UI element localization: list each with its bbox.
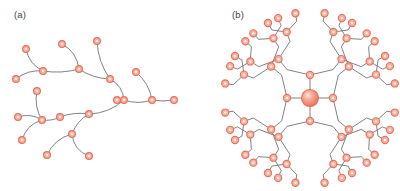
node-highlight xyxy=(368,133,370,135)
node-highlight xyxy=(351,22,353,24)
node-highlight xyxy=(224,111,226,113)
node-highlight xyxy=(389,129,391,131)
node-highlight xyxy=(345,156,347,158)
node-highlight xyxy=(243,120,245,122)
node-highlight xyxy=(252,32,254,34)
node-highlight xyxy=(229,129,231,131)
node-highlight xyxy=(96,40,98,42)
node-highlight xyxy=(267,22,269,24)
node-highlight xyxy=(373,40,375,42)
node-highlight xyxy=(373,153,375,155)
node-highlight xyxy=(384,139,386,141)
node-highlight xyxy=(309,74,311,76)
edge-a xyxy=(47,134,72,155)
edge-b xyxy=(271,67,287,98)
edge-b xyxy=(279,121,310,137)
node-highlight xyxy=(243,73,245,75)
node-highlight xyxy=(345,37,347,39)
node-highlight xyxy=(25,48,27,50)
node-highlight xyxy=(365,32,367,34)
node-highlight xyxy=(116,99,118,101)
node-highlight xyxy=(267,172,269,174)
edge-b xyxy=(330,32,341,59)
graph-svg xyxy=(0,0,400,191)
node-highlight xyxy=(351,172,353,174)
edge-b xyxy=(333,98,349,129)
edge-b xyxy=(244,118,271,129)
node-highlight xyxy=(244,40,246,42)
node-highlight xyxy=(394,111,396,113)
node-highlight xyxy=(270,128,272,130)
node-highlight xyxy=(332,163,334,165)
node-highlight xyxy=(151,99,153,101)
node-highlight xyxy=(286,97,288,99)
node-highlight xyxy=(252,161,254,163)
node-highlight xyxy=(341,177,343,179)
edge-a xyxy=(136,72,152,100)
node-highlight xyxy=(348,65,350,67)
node-highlight xyxy=(249,133,251,135)
edge-b xyxy=(349,118,376,129)
node-highlight xyxy=(88,155,90,157)
node-highlight xyxy=(61,43,63,45)
node-highlight xyxy=(368,60,370,62)
edge-b xyxy=(310,59,341,75)
node-highlight xyxy=(285,163,287,165)
node-highlight xyxy=(46,154,48,156)
edge-b xyxy=(330,137,341,164)
node-highlight xyxy=(389,65,391,67)
node-highlight xyxy=(277,58,279,60)
node-highlight xyxy=(294,12,296,14)
edge-a xyxy=(72,134,89,156)
node-highlight xyxy=(277,17,279,19)
edge-a xyxy=(22,120,42,140)
node-highlight xyxy=(285,31,287,33)
core-node xyxy=(302,90,319,107)
edge-a xyxy=(36,91,42,120)
node-highlight xyxy=(294,182,296,184)
node-highlight xyxy=(332,31,334,33)
node-highlight xyxy=(234,139,236,141)
node-highlight xyxy=(384,55,386,57)
panel-a-nodes xyxy=(13,38,178,160)
edge-b xyxy=(349,67,376,78)
node-highlight xyxy=(59,116,61,118)
node-highlight xyxy=(277,177,279,179)
node-highlight xyxy=(375,120,377,122)
node-highlight xyxy=(123,99,125,101)
node-highlight xyxy=(272,37,274,39)
node-highlight xyxy=(340,136,342,138)
node-highlight xyxy=(224,82,226,84)
node-highlight xyxy=(277,136,279,138)
node-highlight xyxy=(348,128,350,130)
node-highlight xyxy=(71,133,73,135)
node-highlight xyxy=(375,73,377,75)
edge-a xyxy=(26,49,43,71)
node-highlight xyxy=(323,182,325,184)
node-highlight xyxy=(244,153,246,155)
node-highlight xyxy=(173,99,175,101)
edge-b xyxy=(310,121,341,137)
node-highlight xyxy=(394,82,396,84)
edge-b xyxy=(333,67,349,98)
edge-a xyxy=(79,69,110,79)
node-highlight xyxy=(272,156,274,158)
panel-b-core-node xyxy=(302,90,319,107)
node-highlight xyxy=(365,161,367,163)
node-highlight xyxy=(270,65,272,67)
node-highlight xyxy=(340,58,342,60)
node-highlight xyxy=(309,120,311,122)
node-highlight xyxy=(249,60,251,62)
node-highlight xyxy=(323,12,325,14)
node-highlight xyxy=(229,65,231,67)
edge-a xyxy=(62,44,79,69)
edge-b xyxy=(279,137,290,164)
node-highlight xyxy=(88,113,90,115)
edge-a xyxy=(97,41,110,79)
node-highlight xyxy=(78,68,80,70)
edge-b xyxy=(271,98,287,129)
node-highlight xyxy=(36,90,38,92)
node-highlight xyxy=(21,139,23,141)
edge-b xyxy=(244,67,271,78)
node-highlight xyxy=(234,55,236,57)
